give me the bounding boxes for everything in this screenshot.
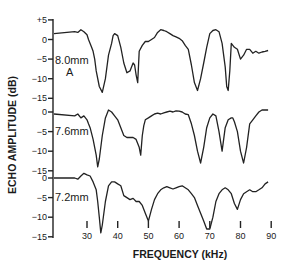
curve-7-6mm [54, 110, 268, 167]
x-axis: 30405060708090 [82, 221, 276, 241]
y-tick-label: −5 [37, 127, 47, 137]
x-tick-label: 30 [82, 231, 92, 241]
y-tick-label: −5 [37, 193, 47, 203]
panel-label-7-6mm: 7.6mm [55, 125, 89, 137]
x-tick-label: 40 [113, 231, 123, 241]
y-tick-label: −10 [32, 146, 47, 156]
x-tick-label: 80 [235, 231, 245, 241]
y-tick-label: −15 [32, 93, 47, 103]
y-axis-title: ECHO AMPLITUDE (dB) [6, 76, 18, 194]
y-tick-label: −10 [32, 212, 47, 222]
echo-amplitude-chart: +50−5−10−150−5−10−150−5−10−15 3040506070… [0, 0, 295, 269]
panel-sublabel-a: A [66, 66, 74, 78]
x-tick-label: 50 [143, 231, 153, 241]
y-tick-label: −5 [37, 54, 47, 64]
y-tick-label: +5 [37, 15, 47, 25]
y-tick-label: 0 [42, 35, 47, 45]
x-tick-label: 60 [174, 231, 184, 241]
panel-label-8mm: 8.0mm [55, 54, 89, 66]
curve-7-2mm [54, 173, 268, 233]
y-tick-label: −10 [32, 74, 47, 84]
x-tick-label: 70 [205, 231, 215, 241]
y-tick-label: −15 [32, 232, 47, 242]
y-tick-label: 0 [42, 107, 47, 117]
y-tick-label: 0 [42, 173, 47, 183]
y-axis: +50−5−10−150−5−10−150−5−10−15 [32, 15, 53, 242]
panel-label-7-2mm: 7.2mm [55, 191, 89, 203]
x-tick-label: 90 [266, 231, 276, 241]
x-axis-title: FREQUENCY (kHz) [133, 248, 227, 260]
